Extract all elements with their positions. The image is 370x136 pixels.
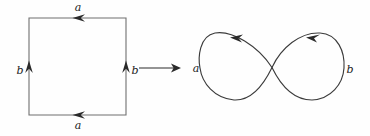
- square-bottom-edge-label: a: [75, 119, 82, 132]
- figure-eight-right-arrowhead: [306, 35, 320, 43]
- square-top-edge-label: a: [75, 1, 82, 14]
- diagram-canvas: a a b b a: [0, 0, 370, 136]
- figure-eight-curve: [199, 33, 344, 100]
- quotient-map-arrow: [139, 64, 181, 73]
- figure-eight-left-label: a: [193, 62, 200, 75]
- square-right-edge-label: b: [131, 64, 138, 77]
- figure-eight-right-label: b: [346, 63, 353, 76]
- square-left-edge-label: b: [16, 64, 23, 77]
- figure-eight-right-loop: [272, 33, 344, 100]
- topology-diagram: a a b b a: [0, 0, 370, 136]
- square-border: [29, 18, 126, 115]
- square-outline: [29, 18, 126, 115]
- figure-eight-left-loop: [199, 33, 272, 100]
